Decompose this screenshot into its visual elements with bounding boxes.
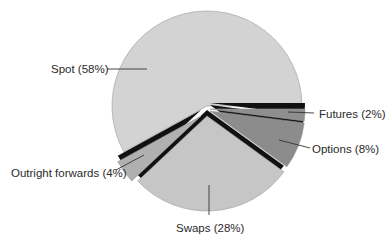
pie-slices bbox=[112, 11, 305, 211]
pie-chart bbox=[0, 0, 388, 246]
label-swaps: Swaps (28%) bbox=[176, 222, 244, 235]
label-futures: Futures (2%) bbox=[319, 108, 385, 121]
label-spot: Spot (58%) bbox=[51, 63, 109, 76]
label-options: Options (8%) bbox=[312, 143, 379, 156]
label-forwards: Outright forwards (4%) bbox=[11, 167, 127, 180]
